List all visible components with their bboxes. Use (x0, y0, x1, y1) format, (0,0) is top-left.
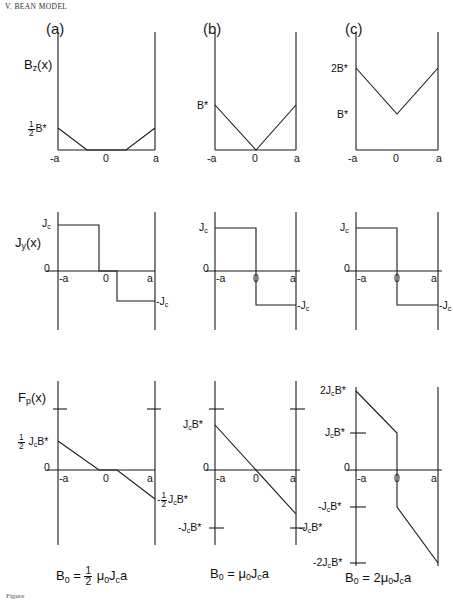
caption-b: B0 = μ0Jca (210, 566, 269, 582)
caption-a: B0 = 12 μ0Jca (56, 566, 127, 587)
value-two-jcbstar-c: 2JcB* (320, 384, 346, 398)
value-zero-c-fp: 0 (344, 461, 350, 473)
caption-c: B0 = 2μ0Jca (345, 570, 411, 586)
value-neg-jcbstar-c: -JcB* (318, 500, 341, 514)
xtick-minus-a-c-fp: -a (357, 472, 366, 484)
figure-page: V. BEAN MODEL (a) (b) (c) Bz(x) 12B* -a … (0, 0, 453, 602)
figure-caption: Figure (6, 592, 24, 600)
value-neg-two-jcbstar-c: -2JcB* (313, 556, 342, 570)
xtick-zero-c-fp: 0 (394, 472, 400, 484)
chart-c-fp (0, 0, 453, 602)
value-jcbstar-c: JcB* (325, 426, 345, 440)
xtick-a-c-fp: a (431, 472, 437, 484)
